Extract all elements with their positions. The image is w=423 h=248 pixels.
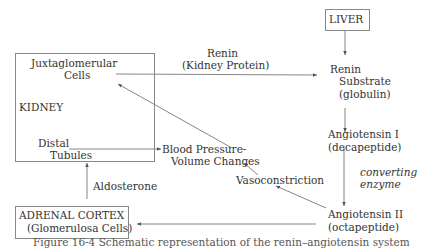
- blood-pressure-label-1: Blood Pressure-: [162, 143, 246, 155]
- converting-enzyme-label-1: converting: [360, 166, 417, 178]
- renin-substrate-label-1: Renin: [330, 63, 361, 75]
- converting-enzyme-label-2: enzyme: [360, 178, 401, 190]
- renin-substrate-label-2: Substrate: [339, 75, 391, 87]
- liver-label: LIVER: [329, 13, 363, 25]
- kidney-protein-label: (Kidney Protein): [182, 59, 269, 71]
- distal-tubules-label-2: Tubules: [50, 149, 92, 161]
- juxtaglomerular-cells-label-1: Juxtaglomerular: [31, 57, 117, 69]
- angiotensin-i-label-2: (decapeptide): [328, 141, 401, 153]
- angiotensin-ii-label-2: (octapeptide): [328, 221, 399, 233]
- adrenal-cortex-label-1: ADRENAL CORTEX: [19, 209, 124, 221]
- adrenal-cortex-label-2: (Glomerulosa Cells): [27, 222, 132, 234]
- aldosterone-label: Aldosterone: [93, 180, 157, 192]
- renin-label: Renin: [207, 47, 238, 59]
- angiotensin-ii-label-1: Angiotensin II: [328, 208, 403, 220]
- blood-pressure-label-2: Volume Changes: [171, 155, 260, 167]
- kidney-label: KIDNEY: [19, 101, 63, 113]
- juxtaglomerular-cells-label-2: Cells: [64, 69, 90, 81]
- renin-substrate-label-3: (globulin): [339, 88, 391, 100]
- vasoconstriction-label: Vasoconstriction: [236, 174, 324, 186]
- figure-caption: Figure 16-4 Schematic representation of …: [33, 236, 410, 248]
- distal-tubules-label-1: Distal: [38, 137, 69, 149]
- angiotensin-i-label-1: Angiotensin I: [328, 128, 399, 140]
